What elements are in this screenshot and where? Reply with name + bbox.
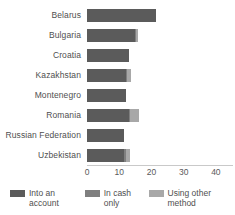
x-axis-ticks: 010203040 bbox=[0, 167, 235, 179]
bar-stack bbox=[87, 29, 138, 42]
plot-area bbox=[87, 5, 232, 165]
bar-stack bbox=[87, 89, 126, 102]
bar-segment bbox=[87, 69, 126, 82]
category-label: Belarus bbox=[0, 5, 84, 25]
x-tick-label: 10 bbox=[114, 167, 123, 177]
bar-row bbox=[87, 145, 232, 165]
bar-segment bbox=[126, 149, 130, 162]
bar-segment bbox=[87, 149, 124, 162]
category-label: Romania bbox=[0, 105, 84, 125]
category-label: Kazakhstan bbox=[0, 65, 84, 85]
bar-segment bbox=[87, 109, 129, 122]
bar-stack bbox=[87, 69, 131, 82]
bar-segment bbox=[136, 29, 138, 42]
x-tick-label: 40 bbox=[211, 167, 220, 177]
bar-segment bbox=[87, 129, 124, 142]
bar-segment bbox=[87, 9, 156, 22]
bar-chart: BelarusBulgariaCroatiaKazakhstanMonteneg… bbox=[0, 0, 235, 215]
bar-stack bbox=[87, 129, 124, 142]
legend-label: In cash only bbox=[104, 188, 140, 208]
x-tick-label: 0 bbox=[85, 167, 90, 177]
chart-legend: Into an accountIn cash onlyUsing other m… bbox=[10, 188, 235, 213]
x-tick-label: 20 bbox=[147, 167, 156, 177]
bar-segment bbox=[87, 89, 126, 102]
category-label: Uzbekistan bbox=[0, 145, 84, 165]
legend-swatch-icon bbox=[149, 190, 164, 197]
bar-row bbox=[87, 105, 232, 125]
legend-item[interactable]: Into an account bbox=[10, 188, 76, 208]
category-label: Russian Federation bbox=[0, 125, 84, 145]
legend-label: Into an account bbox=[29, 188, 76, 208]
bar-segment bbox=[127, 69, 131, 82]
bar-stack bbox=[87, 149, 130, 162]
legend-item[interactable]: Using other method bbox=[149, 188, 226, 208]
legend-label: Using other method bbox=[168, 188, 226, 208]
category-label: Montenegro bbox=[0, 85, 84, 105]
category-axis-labels: BelarusBulgariaCroatiaKazakhstanMonteneg… bbox=[0, 5, 84, 165]
x-axis-line bbox=[87, 165, 233, 166]
bar-row bbox=[87, 45, 232, 65]
x-tick-label: 30 bbox=[179, 167, 188, 177]
bar-stack bbox=[87, 109, 139, 122]
category-label: Bulgaria bbox=[0, 25, 84, 45]
legend-item[interactable]: In cash only bbox=[85, 188, 140, 208]
bar-segment bbox=[87, 29, 135, 42]
legend-swatch-icon bbox=[10, 190, 25, 197]
bar-segment bbox=[87, 49, 129, 62]
bar-row bbox=[87, 85, 232, 105]
bar-stack bbox=[87, 9, 156, 22]
bar-row bbox=[87, 125, 232, 145]
bar-row bbox=[87, 65, 232, 85]
category-label: Croatia bbox=[0, 45, 84, 65]
bar-segment bbox=[130, 109, 138, 122]
legend-swatch-icon bbox=[85, 190, 100, 197]
bar-row bbox=[87, 25, 232, 45]
bar-stack bbox=[87, 49, 129, 62]
bar-row bbox=[87, 5, 232, 25]
